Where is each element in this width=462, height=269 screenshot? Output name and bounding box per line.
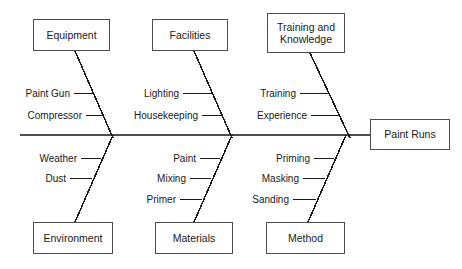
- category-box-method[interactable]: Method: [266, 222, 345, 254]
- category-box-equipment-label: Equipment: [46, 29, 96, 41]
- category-box-materials[interactable]: Materials: [155, 222, 233, 254]
- cause-label-method-0[interactable]: Priming: [276, 153, 310, 164]
- category-box-training-and-knowledge-label: Training and Knowledge: [268, 21, 344, 45]
- bone-line-facilities: [194, 51, 232, 138]
- category-box-facilities[interactable]: Facilities: [152, 19, 228, 51]
- cause-label-training-and-knowledge-0[interactable]: Training: [260, 88, 296, 99]
- category-box-environment-label: Environment: [44, 232, 103, 244]
- cause-label-equipment-1[interactable]: Compressor: [28, 110, 82, 121]
- bone-line-training-and-knowledge: [310, 53, 350, 138]
- bone-line-equipment: [75, 51, 113, 138]
- cause-label-equipment-0[interactable]: Paint Gun: [26, 88, 70, 99]
- cause-label-materials-2[interactable]: Primer: [147, 194, 176, 205]
- category-box-facilities-label: Facilities: [170, 29, 211, 41]
- category-box-training-and-knowledge[interactable]: Training and Knowledge: [267, 13, 345, 53]
- cause-label-environment-0[interactable]: Weather: [39, 153, 77, 164]
- fishbone-diagram: EquipmentFacilitiesTraining and Knowledg…: [0, 0, 462, 269]
- effect-box-paint-runs[interactable]: Paint Runs: [370, 119, 450, 150]
- category-box-materials-label: Materials: [173, 232, 216, 244]
- cause-label-facilities-1[interactable]: Housekeeping: [134, 110, 198, 121]
- cause-label-method-2[interactable]: Sanding: [252, 194, 289, 205]
- cause-label-training-and-knowledge-1[interactable]: Experience: [257, 110, 307, 121]
- cause-label-environment-1[interactable]: Dust: [45, 173, 66, 184]
- cause-label-facilities-0[interactable]: Lighting: [144, 88, 179, 99]
- cause-label-materials-1[interactable]: Mixing: [157, 173, 186, 184]
- effect-box-paint-runs-label: Paint Runs: [384, 128, 435, 140]
- cause-label-method-1[interactable]: Masking: [262, 173, 299, 184]
- cause-label-materials-0[interactable]: Paint: [173, 153, 196, 164]
- category-box-method-label: Method: [288, 232, 323, 244]
- category-box-environment[interactable]: Environment: [33, 222, 113, 254]
- category-box-equipment[interactable]: Equipment: [33, 19, 110, 51]
